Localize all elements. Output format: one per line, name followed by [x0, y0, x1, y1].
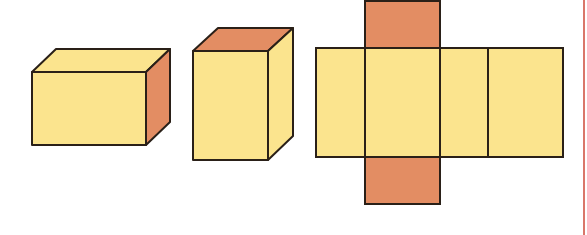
net-top-flap — [365, 1, 440, 48]
diagram-canvas — [0, 0, 587, 235]
net-bottom-flap — [365, 157, 440, 204]
net-face-1 — [316, 48, 365, 157]
cuboid-portrait-front-face — [193, 51, 268, 160]
cuboid-landscape — [32, 49, 170, 145]
net-face-2 — [365, 48, 440, 157]
net-face-4 — [488, 48, 563, 157]
cuboid-portrait-right-face — [268, 28, 293, 160]
cuboid-portrait — [193, 28, 293, 160]
cuboid-net — [316, 1, 563, 204]
net-face-3 — [440, 48, 488, 157]
cuboid-landscape-front-face — [32, 72, 146, 145]
